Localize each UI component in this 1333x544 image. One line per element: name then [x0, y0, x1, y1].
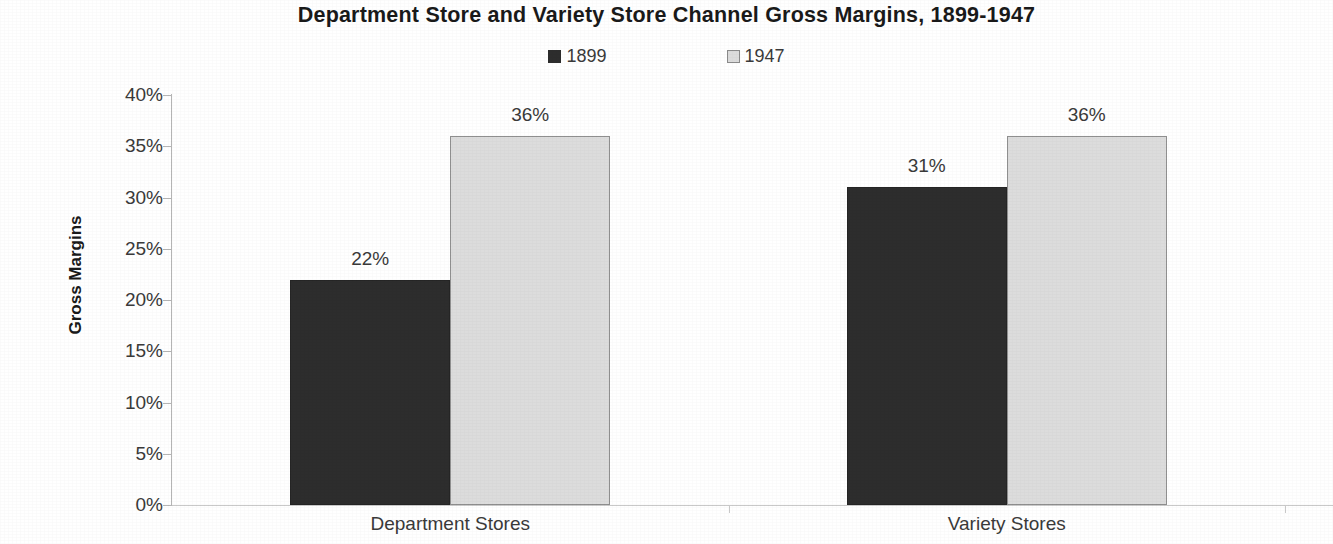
y-axis-tick-label: 5%	[93, 443, 163, 465]
chart-title: Department Store and Variety Store Chann…	[0, 3, 1333, 28]
legend-item-1947[interactable]: 1947	[727, 47, 785, 65]
y-axis-line	[171, 94, 172, 506]
y-axis-tick-label: 20%	[93, 289, 163, 311]
outlined-light-square-icon	[727, 50, 740, 63]
y-axis-tick-label: 10%	[93, 392, 163, 414]
bar-1947-variety-stores[interactable]	[1007, 136, 1167, 505]
filled-dark-square-icon	[548, 50, 561, 63]
y-axis-title: Gross Margins	[66, 215, 86, 334]
bar-value-label: 31%	[908, 155, 946, 177]
y-axis-title-holder: Gross Margins	[58, 170, 84, 380]
x-axis-category-label: Department Stores	[371, 513, 530, 535]
x-axis-line	[172, 505, 1333, 506]
y-axis-tick-label: 0%	[93, 494, 163, 516]
chart-legend: 1899 1947	[0, 47, 1333, 65]
bar-value-label: 36%	[511, 104, 549, 126]
bar-chart: Department Store and Variety Store Chann…	[0, 0, 1333, 544]
y-axis-tick-label: 15%	[93, 340, 163, 362]
bar-1947-department-stores[interactable]	[450, 136, 610, 505]
x-axis-tick	[1285, 505, 1286, 513]
y-axis-tick-label: 35%	[93, 135, 163, 157]
y-axis-tick-label: 40%	[93, 84, 163, 106]
legend-label-1947: 1947	[745, 47, 785, 65]
bar-value-label: 22%	[351, 248, 389, 270]
bar-1899-department-stores[interactable]	[290, 280, 450, 506]
legend-label-1899: 1899	[566, 47, 606, 65]
y-axis-tick-label: 30%	[93, 187, 163, 209]
bar-1899-variety-stores[interactable]	[847, 187, 1007, 505]
x-axis-tick	[729, 505, 730, 513]
y-axis-tick-label: 25%	[93, 238, 163, 260]
bar-value-label: 36%	[1068, 104, 1106, 126]
x-axis-category-label: Variety Stores	[948, 513, 1066, 535]
legend-item-1899[interactable]: 1899	[548, 47, 606, 65]
